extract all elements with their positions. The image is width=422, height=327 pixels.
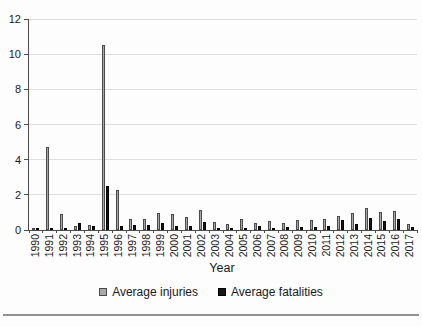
bar-1991-injuries — [46, 147, 49, 230]
chart-figure: 024681012 199019911992199319941995199619… — [0, 0, 422, 327]
bar-2001-injuries — [185, 217, 188, 230]
bar-2017-injuries — [407, 224, 410, 230]
bar-2007-fatalities — [272, 228, 275, 230]
bar-2016-fatalities — [397, 219, 400, 230]
y-tick-label: 8 — [0, 83, 21, 95]
bar-1992-fatalities — [64, 228, 67, 230]
bar-2014-injuries — [365, 208, 368, 230]
bar-2003-injuries — [213, 222, 216, 230]
bar-2008-injuries — [282, 223, 285, 230]
y-tick-label: 10 — [0, 48, 21, 60]
legend-label-injuries: Average injuries — [112, 285, 198, 299]
bar-2003-fatalities — [217, 228, 220, 230]
bar-2005-injuries — [240, 219, 243, 230]
gridline — [29, 159, 417, 160]
bar-2005-fatalities — [244, 228, 247, 230]
fatalities-swatch-icon — [218, 288, 226, 296]
gridline — [29, 19, 417, 20]
legend-item-injuries: Average injuries — [99, 285, 198, 299]
y-tick-label: 0 — [0, 224, 21, 236]
bottom-rule — [3, 314, 419, 316]
bar-1995-fatalities — [106, 186, 109, 230]
gridline — [29, 194, 417, 195]
bar-2014-fatalities — [369, 218, 372, 230]
bar-2015-fatalities — [383, 221, 386, 230]
injuries-swatch-icon — [99, 288, 107, 296]
bar-1990-injuries — [32, 228, 35, 230]
y-tick-label: 12 — [0, 13, 21, 25]
bar-2002-fatalities — [203, 222, 206, 230]
plot-area — [28, 19, 417, 231]
bar-1993-fatalities — [78, 223, 81, 230]
bar-2017-fatalities — [411, 227, 414, 230]
bar-1996-fatalities — [120, 226, 123, 230]
bar-2001-fatalities — [189, 226, 192, 230]
bar-2000-fatalities — [175, 226, 178, 230]
bar-2012-fatalities — [341, 220, 344, 230]
bar-2012-injuries — [337, 216, 340, 230]
bar-2006-fatalities — [258, 226, 261, 230]
legend-label-fatalities: Average fatalities — [231, 285, 323, 299]
bar-2006-injuries — [254, 223, 257, 230]
y-tick-label: 6 — [0, 119, 21, 131]
y-tick-label: 2 — [0, 189, 21, 201]
x-axis-title: Year — [28, 261, 416, 275]
bar-1994-fatalities — [92, 226, 95, 230]
bar-1999-injuries — [157, 213, 160, 230]
bar-2015-injuries — [379, 212, 382, 230]
bar-1990-fatalities — [36, 228, 39, 230]
bar-2010-injuries — [310, 220, 313, 230]
bar-2000-injuries — [171, 214, 174, 230]
bar-2010-fatalities — [314, 227, 317, 230]
legend-item-fatalities: Average fatalities — [218, 285, 323, 299]
legend: Average injuries Average fatalities — [0, 285, 422, 299]
bar-2011-fatalities — [327, 226, 330, 230]
bar-2013-fatalities — [355, 224, 358, 230]
bar-1995-injuries — [102, 45, 105, 230]
bar-2013-injuries — [351, 213, 354, 230]
x-tick-mark — [417, 230, 418, 233]
bar-1998-injuries — [143, 219, 146, 230]
bar-2008-fatalities — [286, 227, 289, 230]
gridline — [29, 124, 417, 125]
bar-2016-injuries — [393, 211, 396, 230]
bar-1992-injuries — [60, 214, 63, 230]
bar-2002-injuries — [199, 210, 202, 230]
bar-2009-fatalities — [300, 227, 303, 230]
bar-2007-injuries — [268, 221, 271, 230]
y-tick-label: 4 — [0, 154, 21, 166]
bar-1999-fatalities — [161, 223, 164, 230]
bar-1993-injuries — [74, 226, 77, 230]
bar-2009-injuries — [296, 220, 299, 230]
bar-1998-fatalities — [147, 225, 150, 230]
bar-1997-injuries — [129, 219, 132, 230]
bar-1997-fatalities — [133, 225, 136, 230]
gridline — [29, 89, 417, 90]
bar-2004-fatalities — [230, 228, 233, 230]
bar-1994-injuries — [88, 225, 91, 230]
bar-1991-fatalities — [50, 228, 53, 230]
gridline — [29, 54, 417, 55]
bar-1996-injuries — [116, 190, 119, 230]
bar-2004-injuries — [226, 224, 229, 230]
bar-2011-injuries — [323, 219, 326, 230]
